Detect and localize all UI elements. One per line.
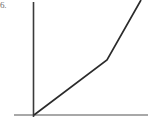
data-series-line xyxy=(34,0,141,115)
figure-container: 6. xyxy=(0,0,148,123)
line-chart-plot xyxy=(0,0,148,123)
